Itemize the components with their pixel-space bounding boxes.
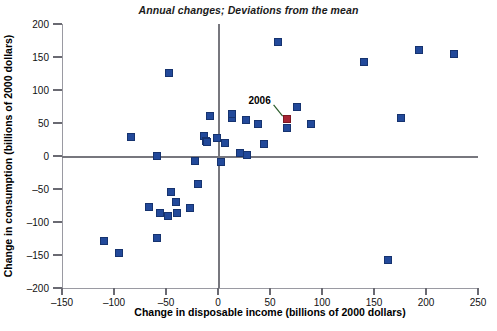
x-tick-mark: [477, 288, 478, 295]
x-tick-mark: [217, 288, 218, 295]
x-tick-mark: [61, 288, 62, 295]
y-tick-label: –200: [27, 283, 49, 294]
chart-title: Annual changes; Deviations from the mean: [0, 4, 497, 16]
y-tick-mark: [53, 254, 62, 255]
y-tick-mark: [53, 56, 62, 57]
x-tick-mark: [425, 288, 426, 295]
y-tick-mark: [53, 122, 62, 123]
x-tick-mark: [165, 288, 166, 295]
x-tick-label: 50: [264, 297, 275, 308]
x-tick-mark: [321, 288, 322, 295]
x-tick-label: 250: [470, 297, 487, 308]
x-tick-label: –150: [51, 297, 73, 308]
y-tick-label: –100: [27, 217, 49, 228]
x-tick-label: –50: [158, 297, 175, 308]
y-tick-mark: [53, 23, 62, 24]
annotation-leader-line: [62, 24, 478, 288]
y-tick-label: 100: [32, 85, 49, 96]
y-tick-label: 200: [32, 19, 49, 30]
y-tick-label: 50: [38, 118, 49, 129]
y-tick-mark: [53, 89, 62, 90]
x-tick-label: 150: [366, 297, 383, 308]
y-tick-label: 0: [43, 151, 49, 162]
x-tick-label: –100: [103, 297, 125, 308]
scatter-chart-figure: Annual changes; Deviations from the mean…: [0, 0, 497, 331]
y-tick-label: –150: [27, 250, 49, 261]
y-tick-label: –50: [32, 184, 49, 195]
annotation-label-2006: 2006: [248, 94, 270, 105]
x-tick-label: 0: [215, 297, 221, 308]
y-tick-mark: [53, 155, 62, 156]
x-tick-mark: [269, 288, 270, 295]
x-tick-mark: [373, 288, 374, 295]
x-tick-label: 100: [314, 297, 331, 308]
plot-area: –200–150–100–50050100150200–150–100–5005…: [62, 24, 478, 288]
y-tick-mark: [53, 221, 62, 222]
y-tick-mark: [53, 188, 62, 189]
x-tick-label: 200: [418, 297, 435, 308]
y-tick-label: 150: [32, 52, 49, 63]
x-tick-mark: [113, 288, 114, 295]
y-axis-label: Change in consumption (billions of 2000 …: [2, 24, 16, 288]
